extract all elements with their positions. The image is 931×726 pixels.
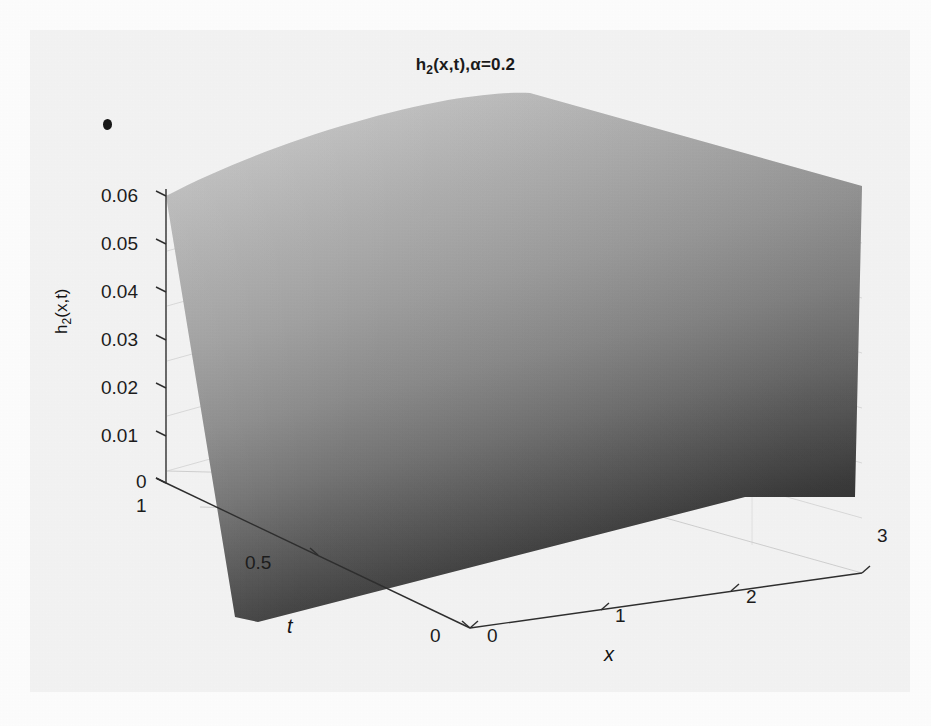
x-axis-title: x	[604, 643, 614, 666]
z-tick-label: 0	[136, 471, 147, 493]
z-tick-label: 0.05	[101, 233, 138, 255]
t-axis-title: t	[287, 615, 293, 638]
z-axis-title-main: h	[52, 324, 71, 333]
z-tick-label: 0.03	[101, 329, 138, 351]
z-tick-label: 0.02	[101, 377, 138, 399]
x-axis-line	[470, 573, 862, 628]
z-tick-label: 0.04	[101, 281, 138, 303]
x-axis-ticks	[470, 566, 870, 628]
z-axis-title: h2(x,t)	[52, 266, 74, 356]
x-tick-label: 1	[615, 605, 626, 627]
z-axis-ticks	[156, 191, 166, 483]
surface-plot-svg	[0, 0, 931, 726]
scan-speck-icon	[103, 119, 112, 130]
chart-title-main: h	[416, 55, 427, 74]
figure-page: h2(x,t),α=0.2 h2(x,t) 0.06 0.05 0.04 0.0…	[0, 0, 931, 726]
surface-mesh	[166, 93, 862, 622]
x-tick-label: 0	[487, 625, 498, 647]
surface-side-shade	[166, 93, 862, 622]
chart-title-rest: (x,t),α=0.2	[433, 55, 515, 74]
z-tick-label: 0.01	[101, 425, 138, 447]
z-tick-label: 0.06	[101, 185, 138, 207]
t-tick-label: 0.5	[245, 552, 271, 574]
z-axis-title-rest: (x,t)	[52, 288, 71, 317]
x-tick-label: 2	[746, 586, 757, 608]
x-tick-label: 3	[877, 525, 888, 547]
z-axis-title-subscript: 2	[60, 318, 74, 325]
t-tick-label: 1	[136, 495, 147, 517]
t-tick-label: 0	[430, 625, 441, 647]
chart-title: h2(x,t),α=0.2	[0, 55, 931, 77]
